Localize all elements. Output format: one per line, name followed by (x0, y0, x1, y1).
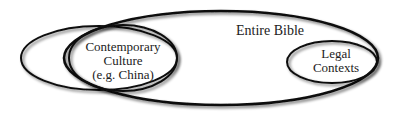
contemporary-culture-line-3: (e.g. China) (78, 68, 168, 82)
contemporary-culture-line-1: Contemporary (78, 40, 168, 54)
entire-bible-label: Entire Bible (220, 24, 320, 38)
contemporary-culture-label: Contemporary Culture (e.g. China) (78, 40, 168, 82)
legal-contexts-label: Legal Contexts (300, 47, 372, 75)
contemporary-culture-line-2: Culture (78, 54, 168, 68)
legal-contexts-line-2: Contexts (300, 61, 372, 75)
venn-diagram: Entire Bible Contemporary Culture (e.g. … (0, 0, 401, 116)
legal-contexts-line-1: Legal (300, 47, 372, 61)
